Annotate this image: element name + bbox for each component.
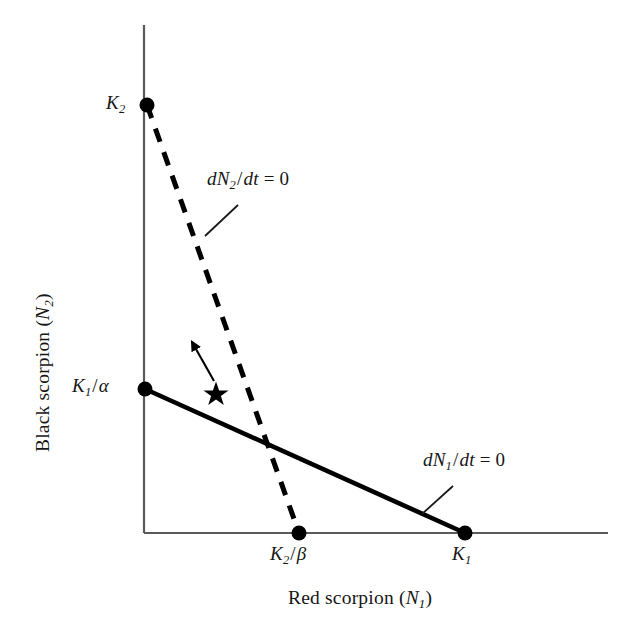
trajectory-star-icon [204,382,229,406]
curve-label-dn2: dN2/dt = 0 [207,168,289,193]
tick-label-k2-over-beta: K2/β [270,543,307,568]
marker-k2 [140,98,155,113]
figure-container: Black scorpion (N2) Red scorpion (N1) K2… [0,0,643,632]
curve-label-dn1: dN1/dt = 0 [423,449,505,474]
tick-label-k2: K2 [106,92,125,117]
tick-label-k1: K1 [452,543,471,568]
marker-k1 [458,526,473,541]
dn1-leader-line [422,486,453,514]
isocline-plot [0,0,643,632]
dn1-isocline [145,389,465,533]
y-axis-title: Black scorpion (N2) [32,293,57,452]
marker-k1-over-alpha [138,382,153,397]
trajectory-arrow-icon [192,342,214,381]
tick-label-k1-over-alpha: K1/α [72,375,109,400]
marker-k2-over-beta [292,526,307,541]
x-axis-title: Red scorpion (N1) [288,587,432,612]
dn2-leader-line [205,205,238,236]
